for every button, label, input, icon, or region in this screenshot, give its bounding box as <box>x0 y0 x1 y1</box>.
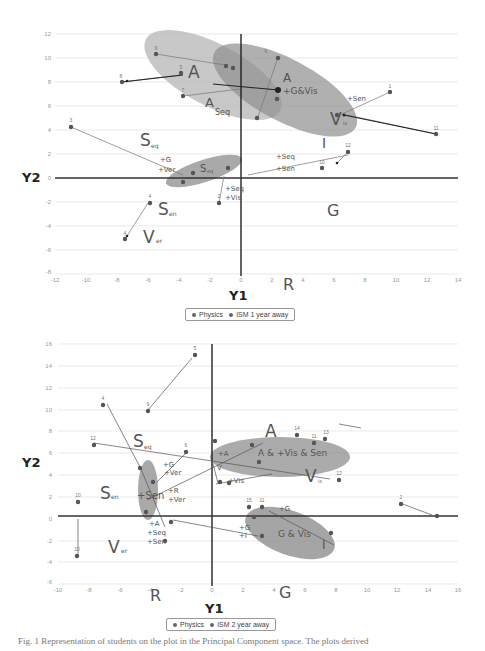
svg-text:-2: -2 <box>47 538 53 544</box>
svg-text:14: 14 <box>425 587 432 593</box>
legend-dot-icon <box>210 623 214 627</box>
x-tick-labels: -12 -10 -8 -6 -4 -2 0 2 4 6 8 10 12 14 <box>51 277 462 283</box>
svg-text:+Vis: +Vis <box>225 194 241 202</box>
svg-text:I: I <box>322 538 326 552</box>
svg-text:+Sen: +Sen <box>276 165 295 173</box>
svg-text:en: en <box>169 210 177 217</box>
svg-text:-10: -10 <box>54 587 63 593</box>
svg-text:A: A <box>283 71 292 85</box>
svg-text:Seq: Seq <box>215 108 230 117</box>
svg-text:12: 12 <box>336 470 342 476</box>
y-tick-labels: 12 10 8 6 4 2 0 -2 -4 -6 -8 <box>44 31 51 275</box>
svg-text:6: 6 <box>49 450 53 456</box>
svg-text:+A: +A <box>149 520 160 528</box>
svg-text:10: 10 <box>74 546 80 552</box>
legend-item-ism: ISM 1 year away <box>229 311 288 318</box>
svg-text:7: 7 <box>182 87 185 93</box>
svg-text:+Seq: +Seq <box>147 529 166 537</box>
svg-text:+Sen: +Sen <box>137 490 164 501</box>
svg-text:10: 10 <box>319 159 325 165</box>
svg-text:er: er <box>156 237 163 244</box>
svg-text:5: 5 <box>194 345 197 351</box>
svg-text:A: A <box>265 421 277 441</box>
svg-text:V: V <box>330 109 342 129</box>
svg-text:4: 4 <box>48 127 52 133</box>
legend-chart1: PhysicsISM 1 year away <box>185 308 295 321</box>
chart1-plot: 12 10 8 6 4 2 0 -2 -4 -6 -8 -12 -10 -8 -… <box>0 0 485 325</box>
svg-text:9: 9 <box>155 45 158 51</box>
svg-text:+G: +G <box>160 156 171 164</box>
svg-text:6: 6 <box>185 442 188 448</box>
svg-text:+Ver: +Ver <box>168 496 185 504</box>
svg-text:A: A <box>205 95 214 110</box>
svg-text:V: V <box>305 466 317 486</box>
x-axis-title: Y1 <box>228 288 247 303</box>
svg-text:2: 2 <box>270 277 274 283</box>
svg-text:+G&Vis: +G&Vis <box>283 86 318 96</box>
svg-text:-8: -8 <box>46 269 52 275</box>
svg-text:is: is <box>318 478 322 484</box>
svg-text:4: 4 <box>124 230 127 236</box>
svg-text:0: 0 <box>48 175 52 181</box>
svg-text:4: 4 <box>272 587 276 593</box>
svg-text:eq: eq <box>144 443 152 451</box>
svg-text:+Sen: +Sen <box>347 95 366 103</box>
svg-text:S: S <box>140 130 151 150</box>
svg-text:-6: -6 <box>145 277 151 283</box>
svg-text:+A: +A <box>218 450 229 458</box>
svg-text:3: 3 <box>70 117 73 123</box>
svg-text:R: R <box>283 275 294 294</box>
svg-text:G: G <box>327 201 339 220</box>
svg-text:-8: -8 <box>114 277 120 283</box>
x-axis-title: Y1 <box>204 601 223 616</box>
svg-text:V: V <box>217 464 222 472</box>
svg-text:is: is <box>343 120 347 126</box>
svg-text:+G: +G <box>239 524 250 532</box>
svg-text:9: 9 <box>147 401 150 407</box>
svg-text:12: 12 <box>90 435 96 441</box>
svg-text:4: 4 <box>301 277 305 283</box>
svg-text:A: A <box>188 62 200 82</box>
svg-text:10: 10 <box>75 492 81 498</box>
svg-text:I: I <box>322 135 326 151</box>
svg-text:eq: eq <box>151 142 159 150</box>
svg-text:+Ver: +Ver <box>158 166 175 174</box>
svg-text:8: 8 <box>48 79 52 85</box>
y-tick-labels: 16 14 12 10 8 6 4 2 0 -2 -4 -6 <box>45 341 52 585</box>
svg-text:1: 1 <box>389 83 392 89</box>
svg-text:S: S <box>133 431 144 451</box>
svg-text:2: 2 <box>49 494 53 500</box>
svg-text:+R: +R <box>168 487 179 495</box>
svg-text:V: V <box>143 227 155 247</box>
svg-text:V: V <box>108 537 120 557</box>
svg-text:8: 8 <box>120 73 123 79</box>
svg-text:16: 16 <box>455 587 462 593</box>
svg-text:4: 4 <box>49 472 53 478</box>
svg-text:-12: -12 <box>51 277 60 283</box>
svg-text:12: 12 <box>44 31 51 37</box>
y-axis-title: Y2 <box>21 455 40 470</box>
svg-text:10: 10 <box>364 587 371 593</box>
svg-text:-2: -2 <box>46 199 52 205</box>
svg-text:12: 12 <box>394 587 401 593</box>
svg-text:2: 2 <box>218 193 221 199</box>
legend-dot-icon <box>229 313 233 317</box>
legend-chart2: PhysicsISM 2 year away <box>166 618 276 631</box>
svg-text:16: 16 <box>45 341 52 347</box>
svg-text:2: 2 <box>48 151 52 157</box>
legend-dot-icon <box>192 313 196 317</box>
svg-text:2: 2 <box>400 494 403 500</box>
svg-text:-6: -6 <box>47 579 53 585</box>
svg-text:-8: -8 <box>86 587 92 593</box>
svg-text:8: 8 <box>363 277 367 283</box>
svg-text:-4: -4 <box>176 277 182 283</box>
figure-caption: Fig. 1 Representation of students on the… <box>18 636 478 646</box>
svg-text:6: 6 <box>303 587 307 593</box>
svg-text:11: 11 <box>259 497 264 503</box>
svg-text:12: 12 <box>345 142 351 148</box>
svg-text:er: er <box>121 547 128 554</box>
svg-text:14: 14 <box>45 363 52 369</box>
svg-text:13: 13 <box>323 429 329 435</box>
svg-text:0: 0 <box>239 277 243 283</box>
chart-ism-2-year: 16 14 12 10 8 6 4 2 0 -2 -4 -6 -10 -8 -6… <box>0 325 485 625</box>
